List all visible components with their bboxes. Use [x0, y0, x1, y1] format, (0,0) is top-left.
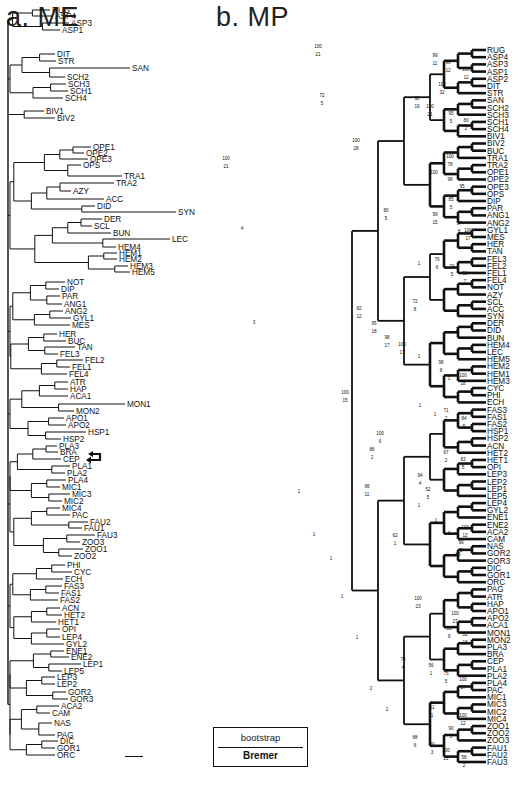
bremer-value: 21 — [443, 756, 449, 761]
bootstrap-value: 99 — [432, 212, 438, 217]
bremer-value: 2 — [445, 416, 448, 421]
me-leaf-label: ZOO2 — [74, 552, 97, 561]
bootstrap-value: 100 — [222, 156, 230, 161]
me-leaf-label: DID — [97, 202, 111, 211]
bremer-value: 17 — [460, 685, 466, 690]
bootstrap-value: 58 — [461, 755, 467, 760]
bremer-value: 2 — [465, 126, 468, 131]
bremer-value: 18 — [462, 640, 468, 645]
me-leaf-label: NAS — [54, 719, 71, 728]
bootstrap-value: 76 — [434, 257, 440, 262]
me-leaf-label: TRA2 — [116, 179, 137, 188]
me-leaf-label: ASP1 — [62, 26, 83, 35]
bremer-value: 1 — [431, 713, 434, 718]
bootstrap-value: 1 — [298, 489, 301, 494]
me-leaf-label: HEM5 — [132, 268, 155, 277]
bootstrap-value: 52 — [425, 487, 431, 492]
bootstrap-value: 100 — [414, 596, 422, 601]
bremer-value: 12 — [463, 75, 469, 80]
bootstrap-value: 82 — [356, 306, 362, 311]
bootstrap-value: 100 — [459, 373, 467, 378]
bootstrap-value: 80 — [429, 742, 435, 747]
me-leaf-label: SCH4 — [65, 94, 87, 103]
bootstrap-value: 3 — [448, 531, 451, 536]
bremer-value: 1 — [430, 671, 433, 676]
bootstrap-value: 82 — [462, 632, 468, 637]
bootstrap-value: 90 — [414, 96, 420, 101]
bootstrap-value: 1 — [341, 594, 344, 599]
me-leaf-label: LEC — [172, 235, 188, 244]
bootstrap-value: 100 — [352, 138, 360, 143]
bremer-value: 4 — [402, 665, 405, 670]
bremer-value: 17 — [399, 350, 405, 355]
bootstrap-value: 80 — [383, 208, 389, 213]
bremer-value: 23 — [415, 604, 421, 609]
me-leaf-label: OPS — [83, 161, 101, 170]
bremer-value: 5 — [321, 101, 324, 106]
bremer-value: 8 — [440, 368, 443, 373]
bremer-value: 21 — [427, 112, 433, 117]
bootstrap-value: 85 — [455, 552, 461, 557]
bremer-value: 11 — [433, 61, 438, 66]
legend-divider — [218, 747, 303, 748]
bootstrap-value: 98 — [438, 360, 444, 365]
bremer-value: 32 — [439, 90, 445, 95]
bootstrap-value: 99 — [445, 60, 451, 65]
bremer-value: 1 — [394, 541, 397, 546]
bootstrap-value: 75 — [443, 671, 449, 676]
me-leaf-label: FEL3 — [60, 350, 80, 359]
mp-leaf-label: FAU3 — [487, 758, 508, 767]
bootstrap-value: 1 — [435, 518, 438, 523]
bremer-value: 15 — [342, 398, 348, 403]
bootstrap-value: 1 — [434, 412, 437, 417]
bootstrap-value: 86 — [369, 447, 375, 452]
bootstrap-value: 1 — [448, 376, 451, 381]
bremer-value: 2 — [463, 763, 466, 768]
bremer-value: 15 — [432, 220, 438, 225]
bootstrap-value: 1 — [313, 532, 316, 537]
bremer-value: 28 — [353, 146, 359, 151]
bremer-value: 21 — [315, 52, 321, 57]
me-leaf-label: STR — [58, 57, 74, 66]
bremer-value: 6 — [414, 743, 417, 748]
bootstrap-value: 74 — [449, 264, 455, 269]
bootstrap-value: 99 — [458, 540, 464, 545]
bremer-value: 12 — [445, 68, 451, 73]
bootstrap-value: 95 — [459, 184, 465, 189]
bremer-value: 5 — [450, 205, 453, 210]
bremer-value: 6 — [436, 265, 439, 270]
legend-bootstrap-label: bootstrap — [214, 732, 307, 743]
bootstrap-value: 1 — [418, 261, 421, 266]
bootstrap-value: 3 — [457, 313, 460, 318]
bootstrap-value: 61 — [429, 705, 435, 710]
bootstrap-value: 100 — [426, 104, 434, 109]
me-leaf-label: ORC — [57, 751, 75, 760]
bremer-value: 18 — [460, 381, 466, 386]
bremer-value: 18 — [371, 329, 377, 334]
me-leaf-label: HSP1 — [88, 428, 110, 437]
me-leaf-label: MES — [72, 321, 90, 330]
bootstrap-value: 100 — [459, 713, 467, 718]
bremer-value: 12 — [460, 721, 466, 726]
bootstrap-value: 99 — [432, 53, 438, 58]
me-leaf-label: MON1 — [127, 400, 151, 409]
bootstrap-value: 2 — [456, 327, 459, 332]
me-leaf-label: APO2 — [68, 421, 90, 430]
bootstrap-value: 67 — [443, 450, 449, 455]
bremer-value: 6 — [379, 439, 382, 444]
me-leaf-label: BIV2 — [57, 114, 75, 123]
bremer-value: 5 — [450, 734, 453, 739]
bootstrap-value: 71 — [443, 408, 449, 413]
bootstrap-value: 3 — [253, 320, 256, 325]
bremer-value: 5 — [385, 216, 388, 221]
bootstrap-value: 97 — [456, 221, 462, 226]
bootstrap-value: 72 — [319, 93, 325, 98]
bremer-value: 8 — [458, 229, 461, 234]
bootstrap-value: 100 — [464, 228, 472, 233]
bremer-value: 11 — [365, 492, 370, 497]
bootstrap-value: 1 — [356, 635, 359, 640]
bootstrap-value: 1 — [330, 556, 333, 561]
legend-box: bootstrap Bremer — [213, 727, 308, 767]
bremer-value: 17 — [465, 236, 471, 241]
bootstrap-value: 83 — [460, 457, 466, 462]
